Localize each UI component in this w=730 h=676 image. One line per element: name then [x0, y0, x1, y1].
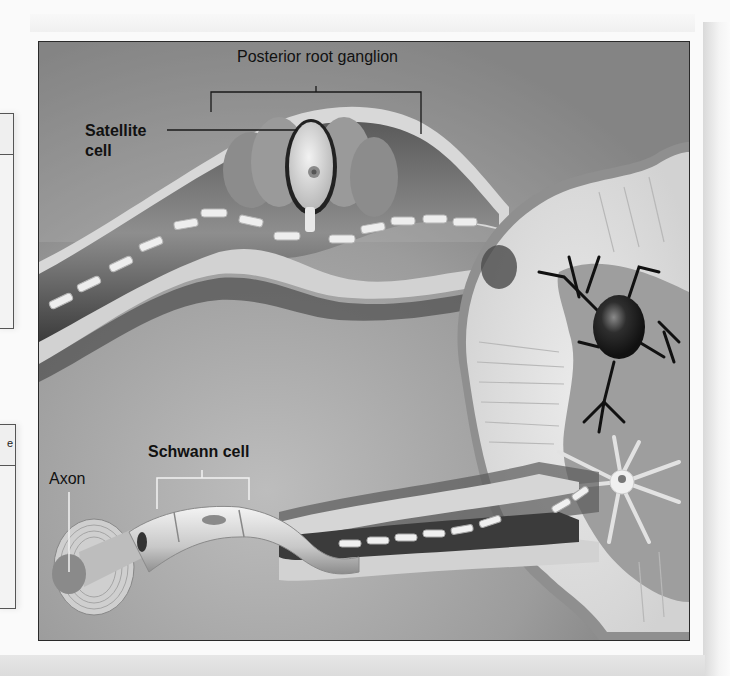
side-table-partial-top — [0, 113, 14, 329]
label-satellite-cell-line2: cell — [85, 142, 112, 160]
label-satellite-cell-line1: Satellite — [85, 122, 146, 140]
label-axon: Axon — [49, 470, 85, 488]
label-schwann-cell: Schwann cell — [148, 443, 249, 461]
page-edge-shadow — [703, 22, 730, 676]
side-table-header-text: e — [7, 437, 13, 449]
dark-neuron-soma — [593, 295, 645, 359]
side-table-header: e — [0, 425, 15, 466]
side-table-header — [0, 114, 13, 155]
nerve-glia-illustration: Posterior root ganglion Satellite cell S… — [38, 41, 690, 641]
label-posterior-root-ganglion: Posterior root ganglion — [237, 48, 398, 66]
page-background-band — [30, 14, 695, 32]
side-table-partial-bottom: e — [0, 424, 16, 609]
page-bottom-shadow — [0, 655, 705, 676]
